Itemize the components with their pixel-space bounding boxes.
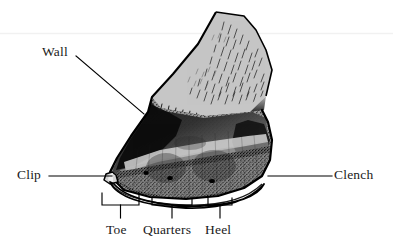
- label-wall: Wall: [42, 45, 68, 59]
- label-clench: Clench: [334, 168, 373, 182]
- hoof-anatomy-figure: Wall Clip Clench Toe Quarters Heel: [0, 0, 393, 249]
- label-quarters: Quarters: [143, 223, 191, 237]
- hoof-diagram-canvas: [0, 0, 393, 249]
- label-heel: Heel: [205, 223, 231, 237]
- label-clip: Clip: [17, 168, 41, 182]
- pastern-region: [152, 12, 272, 116]
- label-toe: Toe: [106, 223, 127, 237]
- leader-line-wall: [76, 56, 144, 114]
